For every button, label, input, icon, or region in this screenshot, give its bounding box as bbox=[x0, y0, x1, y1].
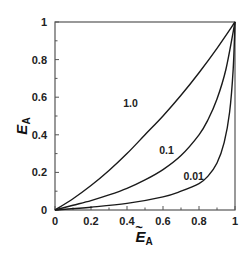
curve-label: 0.1 bbox=[159, 144, 174, 156]
x-tick-label: 0 bbox=[52, 215, 58, 227]
curve-label: 1.0 bbox=[123, 97, 138, 109]
x-tick-label: 0.2 bbox=[83, 215, 98, 227]
y-tick-label: 0.4 bbox=[32, 129, 48, 141]
curves bbox=[55, 22, 235, 210]
plot-frame bbox=[55, 22, 235, 210]
curve-1-0 bbox=[55, 22, 235, 210]
x-tick-label: 1 bbox=[232, 215, 238, 227]
curve-0-1 bbox=[55, 22, 235, 210]
curve-label: 0.01 bbox=[183, 170, 204, 182]
svg-text:EA: EA bbox=[13, 117, 32, 134]
y-tick-label: 0.6 bbox=[32, 91, 47, 103]
plot-border bbox=[55, 22, 235, 210]
y-tick-label: 0 bbox=[41, 204, 47, 216]
y-tick-label: 0.2 bbox=[32, 166, 47, 178]
chart: 00.20.40.60.8100.20.40.60.81 1.00.10.01 … bbox=[0, 0, 247, 255]
x-tick-label: 0.8 bbox=[191, 215, 206, 227]
tilde-mark: ~ bbox=[135, 220, 143, 235]
x-tick-label: 0.4 bbox=[119, 215, 135, 227]
curve-0-01 bbox=[55, 22, 235, 210]
x-axis-title: EA ~ bbox=[135, 220, 152, 247]
x-tick-label: 0.6 bbox=[155, 215, 170, 227]
y-tick-label: 0.8 bbox=[32, 54, 47, 66]
y-axis-title: EA bbox=[13, 117, 32, 134]
y-tick-label: 1 bbox=[41, 16, 47, 28]
